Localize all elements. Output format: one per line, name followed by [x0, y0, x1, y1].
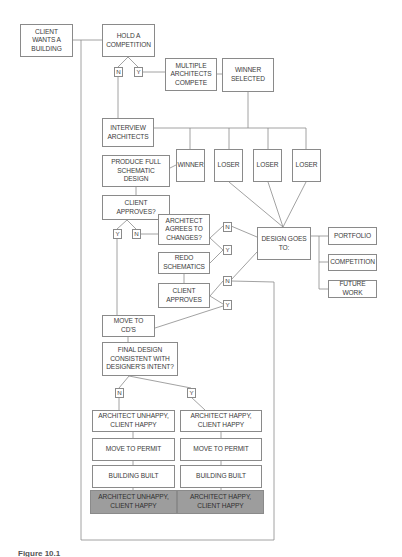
node-winner: WINNER — [176, 149, 205, 182]
node-loser-2: LOSER — [253, 149, 282, 182]
decision-agrees-yes: Y — [223, 245, 232, 255]
node-interview-architects: INTERVIEW ARCHITECTS — [102, 118, 154, 147]
decision-approves-no: N — [132, 229, 141, 239]
node-competition: COMPETITION — [328, 254, 377, 271]
node-left-move-to-permit: MOVE TO PERMIT — [92, 438, 175, 461]
node-right-final-outcome: ARCHITECT HAPPY, CLIENT HAPPY — [177, 490, 264, 514]
node-right-building-built: BUILDING BUILT — [180, 465, 262, 488]
decision-hold-yes: Y — [134, 67, 143, 77]
node-right-move-to-permit: MOVE TO PERMIT — [180, 438, 262, 461]
node-multiple-architects-compete: MULTIPLE ARCHITECTS COMPETE — [165, 58, 217, 91]
node-client-approves: CLIENT APPROVES — [158, 283, 210, 308]
node-produce-schematic-design: PRODUCE FULL SCHEMATIC DESIGN — [102, 155, 170, 187]
node-right-outcome: ARCHITECT HAPPY, CLIENT HAPPY — [180, 410, 262, 432]
node-winner-selected: WINNER SELECTED — [222, 58, 274, 92]
node-left-building-built: BUILDING BUILT — [92, 465, 175, 488]
decision-approves-yes: Y — [113, 229, 122, 239]
flowchart-canvas: CLIENT WANTS A BUILDING HOLD A COMPETITI… — [0, 0, 402, 557]
node-final-design-consistent: FINAL DESIGN CONSISTENT WITH DESIGNER'S … — [102, 342, 178, 376]
node-redo-schematics: REDO SCHEMATICS — [158, 252, 210, 274]
decision-client-yes: Y — [223, 300, 232, 310]
node-move-to-cds: MOVE TO CD'S — [102, 315, 155, 337]
decision-final-no: N — [115, 388, 124, 398]
decision-hold-no: N — [114, 67, 123, 77]
node-design-goes-to: DESIGN GOES TO: — [257, 227, 311, 260]
node-loser-1: LOSER — [214, 149, 243, 182]
figure-caption: Figure 10.1 — [18, 549, 60, 557]
decision-agrees-no: N — [223, 222, 232, 232]
node-left-final-outcome: ARCHITECT UNHAPPY, CLIENT HAPPY — [90, 490, 177, 514]
node-future-work: FUTURE WORK — [328, 280, 377, 298]
node-left-outcome: ARCHITECT UNHAPPY, CLIENT HAPPY — [92, 410, 175, 432]
node-architect-agrees-to-changes: ARCHITECT AGREES TO CHANGES? — [158, 214, 210, 245]
decision-final-yes: Y — [187, 388, 196, 398]
decision-client-no: N — [223, 276, 232, 286]
node-hold-competition: HOLD A COMPETITION — [102, 24, 155, 57]
node-portfolio: PORTFOLIO — [328, 227, 377, 245]
node-client-wants-building: CLIENT WANTS A BUILDING — [20, 24, 73, 57]
node-loser-3: LOSER — [292, 149, 321, 182]
